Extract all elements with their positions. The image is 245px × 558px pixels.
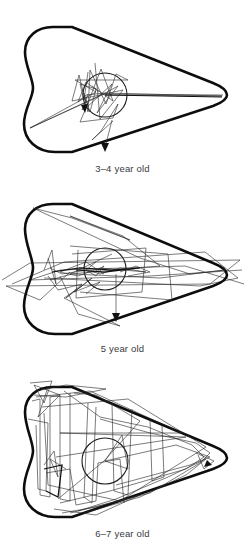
search-path-trace (33, 208, 160, 274)
panel-3-plot (0, 373, 245, 548)
search-path-trace (150, 419, 164, 481)
panel-3-4-year-old: 3–4 year old (0, 0, 245, 185)
search-path-trace (105, 435, 128, 469)
search-path-trace (42, 399, 206, 501)
panel-2-plot (0, 188, 245, 348)
search-path-trace-bold (52, 268, 140, 272)
search-path-trace (78, 459, 206, 513)
path-arrow-head-icon (101, 143, 109, 152)
trajectory-figure: 3–4 year old 5 year (0, 0, 245, 558)
panel-1-plot (0, 0, 245, 160)
panel-caption: 5 year old (0, 343, 245, 354)
panel-6-7-year-old: 6–7 year old (0, 373, 245, 558)
panel-caption: 6–7 year old (0, 528, 245, 539)
search-path-trace (78, 82, 222, 102)
arena-outline-icon (24, 27, 227, 152)
panel-caption: 3–4 year old (0, 163, 245, 174)
search-path-trace (84, 403, 96, 503)
search-path-trace (70, 246, 172, 300)
panel-5-year-old: 5 year old (0, 188, 245, 373)
